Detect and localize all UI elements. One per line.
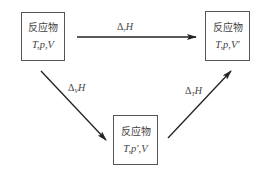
quantity: H xyxy=(126,21,133,32)
node-initial: 反应物 T,p,V xyxy=(21,12,65,61)
edge-label-step2: ΔTH xyxy=(185,85,202,97)
thermodynamic-cycle-diagram: 反应物 T,p,V 反应物 T,p,V′ 反应物 T,p′,V ΔrH ΔVH … xyxy=(0,0,264,175)
node-final-vars: T,p,V′ xyxy=(215,39,239,51)
node-intermediate-name: 反应物 xyxy=(121,126,151,138)
node-final-name: 反应物 xyxy=(213,22,243,34)
node-intermediate-vars: T,p′,V xyxy=(123,143,147,155)
arrow-step2 xyxy=(168,71,231,138)
edge-label-step1: ΔVH xyxy=(68,82,85,94)
edge-label-direct: ΔrH xyxy=(117,21,133,33)
quantity: H xyxy=(78,82,85,93)
node-intermediate: 反应物 T,p′,V xyxy=(113,115,158,165)
quantity: H xyxy=(195,85,202,96)
node-final: 反应物 T,p,V′ xyxy=(205,11,250,61)
node-initial-vars: T,p,V xyxy=(32,39,54,51)
node-initial-name: 反应物 xyxy=(28,22,58,34)
